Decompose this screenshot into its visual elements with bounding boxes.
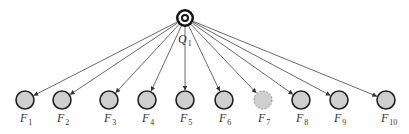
node-label-f10: F10 [380, 111, 397, 127]
edge-q1-f7 [191, 25, 256, 93]
node-f4: F4 [138, 91, 156, 127]
node-label-f2: F2 [56, 111, 69, 127]
root-ring [183, 16, 187, 20]
node-f7: F7 [254, 91, 272, 127]
node-label-f5: F5 [179, 111, 192, 127]
node-label-f3: F3 [103, 111, 116, 127]
node-circle [330, 91, 348, 109]
node-f2: F2 [53, 91, 71, 127]
edge-q1-f1 [34, 22, 177, 95]
node-circle [377, 91, 395, 109]
node-label-f4: F4 [141, 111, 154, 127]
tree-diagram: Q1 F1F2F3F4F5F6F7F8F9F10 [0, 0, 409, 134]
edge-q1-f10 [193, 21, 376, 96]
node-label-f8: F8 [295, 111, 308, 127]
edge-q1-f8 [192, 23, 292, 94]
node-f5: F5 [176, 91, 194, 127]
node-f9: F9 [330, 91, 348, 127]
edge-q1-f4 [151, 26, 181, 91]
node-circle [176, 91, 194, 109]
node-circle [292, 91, 310, 109]
node-f10: F10 [377, 91, 397, 127]
node-f8: F8 [292, 91, 310, 127]
edge-q1-f6 [189, 26, 220, 91]
node-circle [100, 91, 118, 109]
edge-q1-f3 [116, 25, 179, 93]
node-label-f7: F7 [257, 111, 270, 127]
node-f3: F3 [100, 91, 118, 127]
node-label-f1: F1 [19, 111, 32, 127]
node-circle [215, 91, 233, 109]
node-circle [16, 91, 34, 109]
node-circle [53, 91, 71, 109]
root-label-q1: Q1 [178, 32, 192, 48]
edges [34, 21, 377, 96]
node-label-f9: F9 [333, 111, 346, 127]
child-nodes: F1F2F3F4F5F6F7F8F9F10 [16, 91, 397, 127]
node-circle [138, 91, 156, 109]
node-label-f6: F6 [218, 111, 231, 127]
node-f1: F1 [16, 91, 34, 127]
dashed-node-circle [254, 91, 272, 109]
node-f6: F6 [215, 91, 233, 127]
edge-q1-f9 [193, 22, 330, 95]
